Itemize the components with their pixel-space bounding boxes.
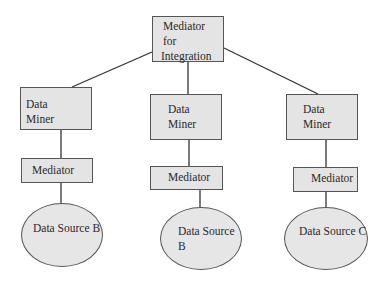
- miner-2-line-1: Data: [168, 102, 221, 117]
- edge-root-miner-right: [224, 48, 318, 94]
- source-1-line-2: Source B: [58, 222, 100, 234]
- miner-3-line-1: Data: [303, 102, 357, 117]
- root-label-line-3: Integration: [161, 49, 223, 64]
- mediator-box-3: Mediator: [293, 167, 358, 192]
- source-3-line-2: Source C: [324, 225, 366, 237]
- root-label-line-1: Mediator: [163, 19, 223, 34]
- source-1-line-1: Data: [33, 222, 55, 234]
- mediator-for-integration-box: Mediator for Integration: [152, 16, 224, 62]
- data-source-ellipse-2: Data Source B: [160, 207, 242, 270]
- mediator-box-1: Mediator: [21, 158, 93, 183]
- miner-3-line-2: Miner: [303, 117, 357, 132]
- source-3-line-1: Data: [299, 225, 321, 237]
- data-source-ellipse-1: Data Source B: [21, 203, 103, 267]
- miner-1-line-1: Data: [26, 97, 91, 112]
- data-miner-box-1: Data Miner: [20, 87, 92, 130]
- mediator-1-label: Mediator: [32, 163, 92, 178]
- root-label-line-2: for: [163, 34, 223, 49]
- source-2-line-1: Data: [178, 225, 200, 237]
- data-miner-box-2: Data Miner: [150, 94, 222, 140]
- miner-1-line-2: Miner: [26, 112, 91, 127]
- mediator-box-2: Mediator: [150, 166, 223, 190]
- data-source-ellipse-3: Data Source C: [284, 207, 368, 270]
- data-miner-box-3: Data Miner: [286, 94, 358, 140]
- edge-root-miner-left: [72, 52, 152, 87]
- mediator-3-label: Mediator: [311, 171, 357, 186]
- miner-2-line-2: Miner: [168, 117, 221, 132]
- mediator-2-label: Mediator: [168, 170, 222, 185]
